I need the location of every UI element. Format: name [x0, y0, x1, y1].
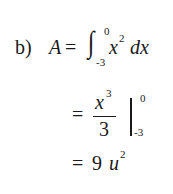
lower-limit: -3 — [96, 57, 105, 68]
eval-upper-limit: 0 — [140, 93, 146, 104]
integral-sign: ∫ — [88, 27, 95, 57]
differential: dx — [130, 37, 149, 57]
eval-lower-limit: -3 — [134, 127, 143, 138]
equals-sign-2: = — [72, 104, 83, 124]
integrand-base: x — [109, 37, 118, 57]
unit-exponent: 2 — [120, 149, 126, 160]
evaluation-bar — [130, 98, 132, 136]
part-label: b) — [15, 37, 32, 57]
equals-sign: = — [65, 37, 76, 57]
integrand-exponent: 2 — [119, 33, 125, 44]
numerator-exponent: 3 — [106, 88, 112, 99]
result-value: 9 — [92, 153, 102, 173]
fraction-bar — [93, 116, 116, 117]
equals-sign-3: = — [72, 153, 83, 173]
area-variable: A — [49, 37, 61, 57]
numerator-base: x — [95, 92, 104, 112]
unit-base: u — [109, 153, 119, 173]
denominator: 3 — [99, 119, 109, 139]
